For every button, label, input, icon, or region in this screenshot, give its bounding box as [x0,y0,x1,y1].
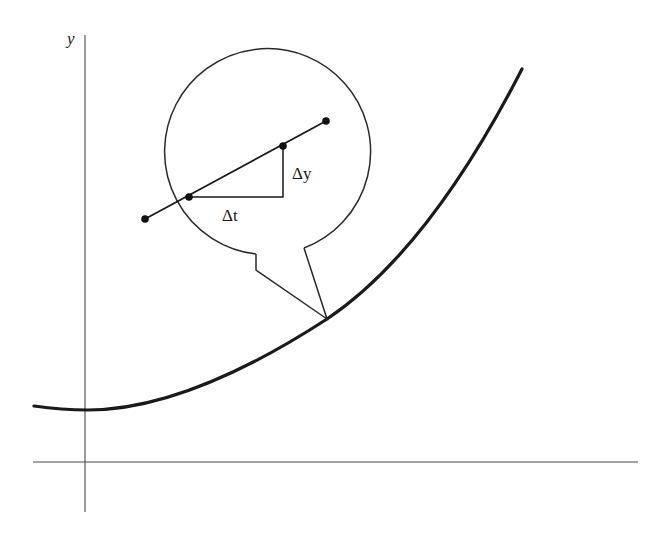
callout-tail [256,248,327,319]
secant-point-4 [322,117,330,125]
secant-point-2 [185,193,193,201]
delta-t-label: Δt [222,206,238,225]
magnifier-callout [165,49,371,319]
y-axis-label: y [65,29,75,48]
magnifier-circle [165,49,371,254]
secant-point-3 [279,142,287,150]
axes: y [33,29,638,512]
secant-detail: Δt Δy [141,117,330,225]
rise-run-triangle [189,146,283,197]
secant-magnifier-diagram: y Δt Δy [0,0,672,539]
function-curve [34,69,522,410]
delta-y-label: Δy [292,164,312,183]
secant-point-1 [141,215,149,223]
